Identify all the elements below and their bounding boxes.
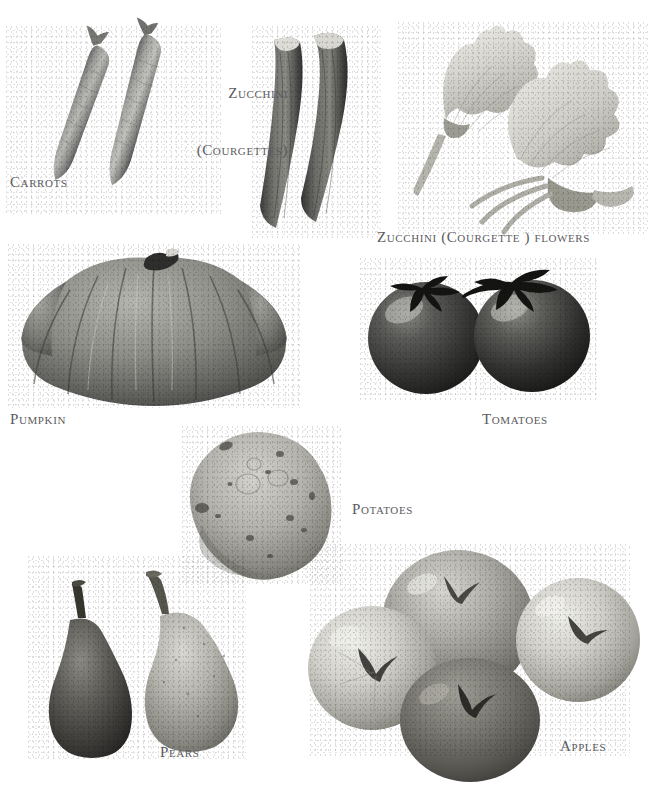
caption-carrots: Carrots: [10, 174, 68, 191]
caption-zucchini-line1: Zucchini: [188, 84, 288, 103]
caption-potatoes: Potatoes: [352, 501, 413, 518]
specimen-zucchini-flowers: [398, 22, 648, 234]
specimen-apples: [310, 544, 630, 756]
caption-apples: Apples: [560, 738, 606, 755]
specimen-tomatoes: [360, 258, 598, 400]
caption-tomatoes: Tomatoes: [482, 411, 548, 428]
caption-zucchini-flowers: Zucchini (Courgette ) flowers: [377, 229, 590, 246]
caption-pears: Pears: [160, 744, 199, 761]
caption-pumpkin: Pumpkin: [10, 411, 66, 428]
caption-zucchini-line2: (Courgettes): [188, 141, 288, 160]
caption-zucchini: Zucchini (Courgettes): [188, 46, 288, 198]
specimen-pumpkin: [8, 244, 300, 408]
specimen-pears: [28, 556, 246, 760]
plate-canvas: Carrots: [0, 0, 651, 790]
